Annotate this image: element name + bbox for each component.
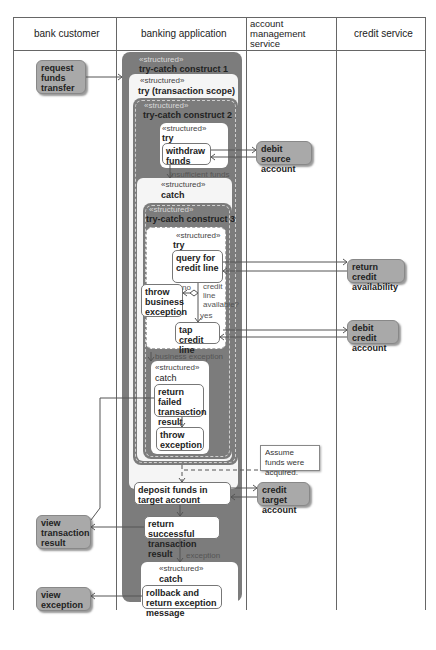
flow-arrows [0, 0, 436, 650]
